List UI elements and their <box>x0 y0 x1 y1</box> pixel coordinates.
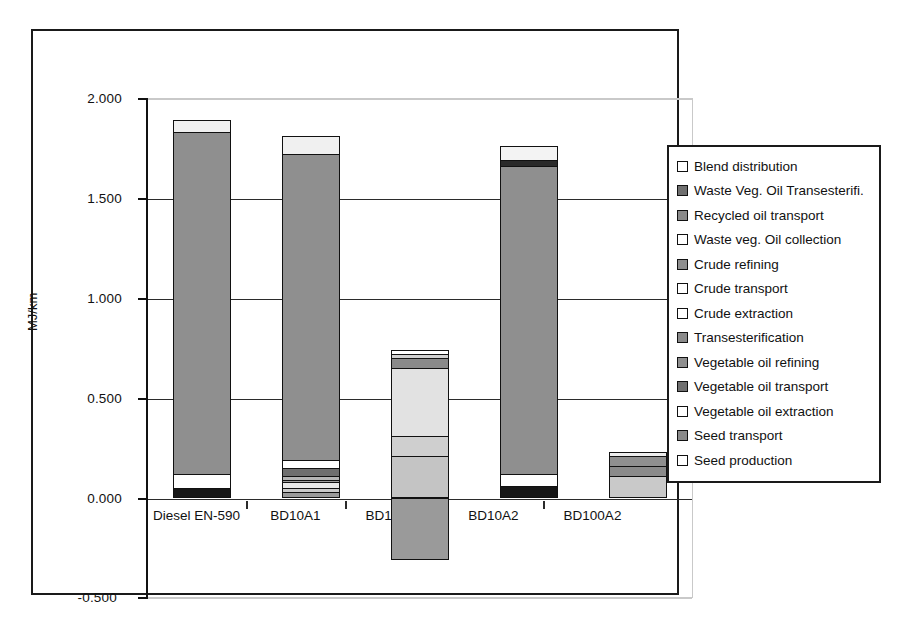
legend-swatch-icon <box>677 259 688 270</box>
bar-segment[interactable] <box>391 436 449 456</box>
bar-segment[interactable] <box>391 368 449 436</box>
legend-item[interactable]: Seed production <box>677 448 873 473</box>
y-tick-2000 <box>138 98 147 100</box>
bar-segment[interactable] <box>391 358 449 368</box>
bar-bd100a1[interactable] <box>391 98 449 598</box>
legend-item-label: Seed production <box>694 453 792 468</box>
legend-item[interactable]: Crude extraction <box>677 301 873 326</box>
bar-segment[interactable] <box>282 468 340 476</box>
bars-layer <box>147 98 693 598</box>
bar-segment[interactable] <box>282 482 340 488</box>
legend-item-label: Transesterification <box>694 330 804 345</box>
legend-item[interactable]: Vegetable oil refining <box>677 350 873 375</box>
y-tick-1000 <box>138 298 147 300</box>
y-axis-label-1500: 1.500 <box>60 192 122 205</box>
chart-legend: Blend distributionWaste Veg. Oil Transes… <box>667 145 881 483</box>
legend-item-label: Vegetable oil extraction <box>694 404 834 419</box>
legend-swatch-icon <box>677 308 688 319</box>
legend-item[interactable]: Transesterification <box>677 326 873 351</box>
bar-segment[interactable] <box>282 154 340 460</box>
bar-segment[interactable] <box>609 466 667 476</box>
bar-segment[interactable] <box>500 166 558 474</box>
bar-segment[interactable] <box>391 456 449 498</box>
legend-item-label: Vegetable oil refining <box>694 355 819 370</box>
legend-swatch-icon <box>677 357 688 368</box>
legend-item[interactable]: Waste Veg. Oil Transesterifi. <box>677 179 873 204</box>
legend-item[interactable]: Vegetable oil extraction <box>677 399 873 424</box>
y-axis-label-0500: 0.500 <box>60 392 122 405</box>
bar-bd10a2[interactable] <box>500 98 558 598</box>
legend-item[interactable]: Waste veg. Oil collection <box>677 228 873 253</box>
bar-bd10a1[interactable] <box>282 98 340 598</box>
legend-item-label: Blend distribution <box>694 159 798 174</box>
gridline-minus0500 <box>148 598 692 599</box>
bar-segment[interactable] <box>609 452 667 456</box>
bar-segment[interactable] <box>391 350 449 354</box>
bar-segment[interactable] <box>609 476 667 498</box>
y-axis-label-1000: 1.000 <box>60 292 122 305</box>
legend-swatch-icon <box>677 430 688 441</box>
y-tick-1500 <box>138 198 147 200</box>
y-tick-minus0500 <box>138 597 147 599</box>
bar-segment[interactable] <box>500 160 558 166</box>
legend-swatch-icon <box>677 332 688 343</box>
legend-swatch-icon <box>677 210 688 221</box>
legend-swatch-icon <box>677 161 688 172</box>
bar-segment[interactable] <box>391 354 449 358</box>
legend-item-label: Vegetable oil transport <box>694 379 828 394</box>
legend-item-label: Waste Veg. Oil Transesterifi. <box>694 183 864 198</box>
legend-swatch-icon <box>677 381 688 392</box>
chart-figure-frame: 2.000 1.500 1.000 0.500 0.000 -0.500 MJ/… <box>31 29 679 595</box>
legend-item[interactable]: Vegetable oil transport <box>677 375 873 400</box>
bar-segment[interactable] <box>282 488 340 492</box>
legend-swatch-icon <box>677 455 688 466</box>
bar-segment[interactable] <box>500 486 558 498</box>
y-axis-label-2000: 2.000 <box>60 92 122 105</box>
y-axis-label-0000: 0.000 <box>60 492 122 505</box>
bar-segment[interactable] <box>500 474 558 486</box>
bar-segment[interactable] <box>282 136 340 154</box>
bar-segment[interactable] <box>609 456 667 466</box>
bar-segment[interactable] <box>173 488 231 498</box>
legend-item-label: Crude transport <box>694 281 788 296</box>
legend-item[interactable]: Blend distribution <box>677 154 873 179</box>
legend-swatch-icon <box>677 283 688 294</box>
bar-segment[interactable] <box>282 460 340 468</box>
legend-swatch-icon <box>677 406 688 417</box>
legend-swatch-icon <box>677 185 688 196</box>
legend-item[interactable]: Recycled oil transport <box>677 203 873 228</box>
legend-item-label: Seed transport <box>694 428 783 443</box>
bar-segment[interactable] <box>282 476 340 480</box>
y-tick-0000 <box>138 498 147 500</box>
bar-segment[interactable] <box>173 132 231 474</box>
bar-bd100a2[interactable] <box>609 98 667 598</box>
y-axis-title: MJ/km <box>25 293 40 331</box>
legend-item-label: Recycled oil transport <box>694 208 824 223</box>
legend-item-label: Crude extraction <box>694 306 793 321</box>
bar-segment[interactable] <box>173 120 231 132</box>
bar-segment[interactable] <box>282 492 340 498</box>
legend-item[interactable]: Crude refining <box>677 252 873 277</box>
legend-item[interactable]: Crude transport <box>677 277 873 302</box>
bar-segment[interactable] <box>282 480 340 482</box>
y-axis-label-minus0500: -0.500 <box>55 591 117 604</box>
legend-item[interactable]: Seed transport <box>677 424 873 449</box>
legend-item-label: Crude refining <box>694 257 779 272</box>
bar-segment[interactable] <box>391 498 449 560</box>
legend-swatch-icon <box>677 234 688 245</box>
bar-segment[interactable] <box>173 474 231 488</box>
y-tick-0500 <box>138 398 147 400</box>
legend-item-label: Waste veg. Oil collection <box>694 232 841 247</box>
bar-diesel-en-590[interactable] <box>173 98 231 598</box>
bar-segment[interactable] <box>500 146 558 160</box>
